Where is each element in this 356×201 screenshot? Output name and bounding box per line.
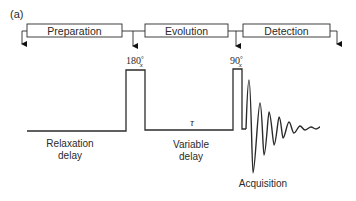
svg-text:Relaxation: Relaxation [46,138,93,149]
stage-evolution: Evolution [145,24,228,37]
pulse-label-180x: 180°x [126,55,144,69]
stage-detection: Detection [243,24,330,37]
connector-evolution-detection-arrow [228,31,243,46]
stage-label-evolution: Evolution [165,25,208,37]
connector-right-arrow [330,31,337,44]
pulse-sequence-diagram: (a) Preparation Evolution Detection 180°… [0,0,356,201]
connector-prep-evolution-arrow [122,31,145,46]
svg-text:delay: delay [179,151,203,162]
svg-text:90°x: 90°x [230,55,243,69]
svg-text:delay: delay [58,150,82,161]
tau-symbol: τ [190,117,194,128]
acquisition-label: Acquisition [239,178,287,189]
svg-text:Variable: Variable [173,139,209,150]
stage-preparation: Preparation [27,24,122,37]
pulse-sequence-waveform [27,69,246,131]
connector-left-arrow [22,31,27,44]
variable-delay-label: Variable delay [173,139,209,162]
fid-acquisition-signal [246,80,320,173]
pulse-label-90x: 90°x [230,55,243,69]
stage-label-detection: Detection [264,25,309,37]
relaxation-delay-label: Relaxation delay [46,138,93,161]
svg-text:180°x: 180°x [126,55,144,69]
panel-label: (a) [10,8,23,20]
stage-label-preparation: Preparation [47,25,101,37]
